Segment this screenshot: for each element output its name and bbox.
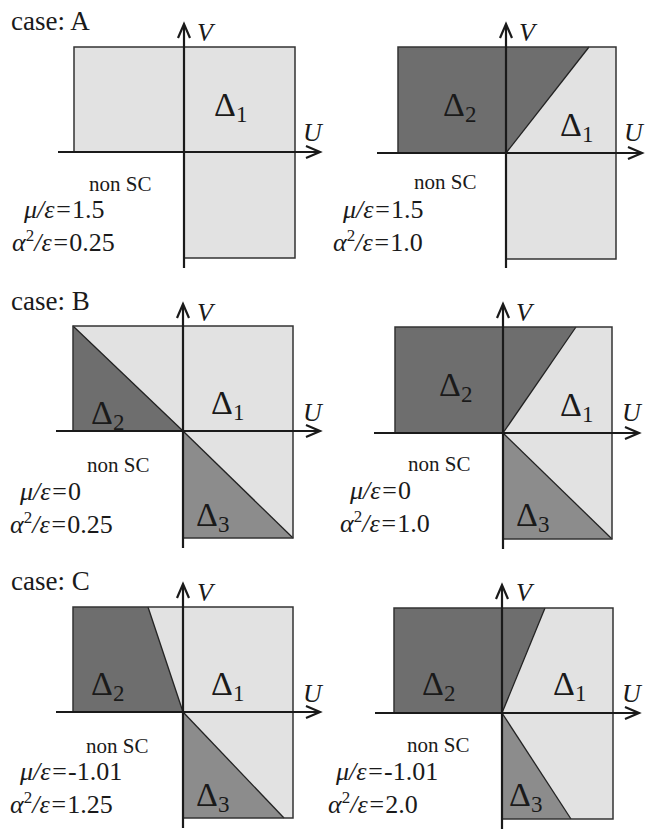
alpha-param: α2/ε=2.0 [328, 792, 418, 818]
u-axis-label: U [622, 681, 641, 707]
region-label-delta1: Δ1 [553, 667, 586, 701]
v-axis-label: V [516, 580, 532, 606]
diagram-graphic [0, 0, 659, 840]
mu-param: μ/ε=-1.01 [336, 759, 438, 785]
non-sc-label: non SC [407, 735, 469, 756]
region-label-delta2: Δ2 [422, 667, 455, 701]
region-label-delta3: Δ3 [509, 778, 542, 812]
